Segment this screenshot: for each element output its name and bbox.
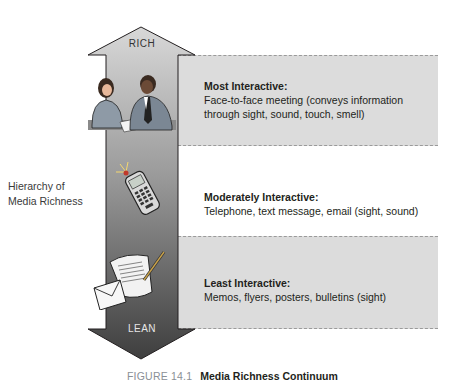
figure-number: FIGURE 14.1 (127, 370, 192, 382)
mobile-phone-icon (112, 160, 170, 218)
figure-title: Media Richness Continuum (200, 370, 338, 382)
rich-label: RICH (106, 38, 178, 49)
memo-envelope-icon (92, 250, 172, 310)
hierarchy-label-line1: Hierarchy of (8, 179, 83, 194)
hierarchy-label: Hierarchy of Media Richness (8, 179, 83, 209)
people-meeting-icon (86, 70, 178, 135)
hierarchy-label-line2: Media Richness (8, 194, 83, 209)
figure-caption: FIGURE 14.1 Media Richness Continuum (127, 370, 338, 382)
lean-label: LEAN (106, 323, 178, 334)
